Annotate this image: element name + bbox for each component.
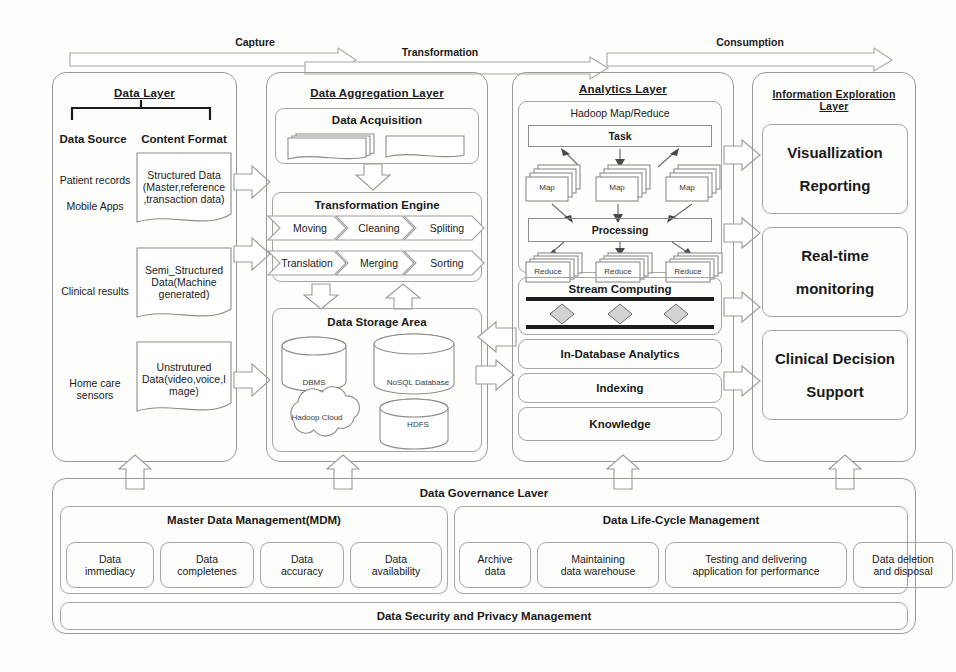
- data-source-item-clinical-results: Clinical results: [52, 283, 138, 299]
- data-source-item-patient-records: Patient records: [52, 172, 138, 188]
- data-source-heading: Data Source: [52, 131, 134, 147]
- mdm-item-data-availability[interactable]: Data availability: [350, 542, 442, 588]
- arrow-acquisition-to-transformation: [352, 163, 394, 191]
- reduce-label: Reduce: [534, 267, 562, 276]
- map-label: Map: [609, 183, 625, 192]
- map-label: Map: [679, 183, 695, 192]
- architecture-diagram: Capture Transformation Consumption Data …: [0, 0, 956, 672]
- transformation-step-cleaning: Cleaning: [350, 219, 408, 237]
- exploration-card-line2: Support: [806, 383, 864, 400]
- exploration-card-line2: Reporting: [800, 177, 871, 194]
- storage-label-hdfs: HDFS: [386, 417, 450, 431]
- lifecycle-item-line1: Data deletion: [872, 553, 934, 565]
- analytics-layer-title-text: Analytics Layer: [579, 83, 667, 95]
- transformation-step-sorting: Sorting: [418, 254, 476, 272]
- mdm-item-line2: accuracy: [281, 565, 323, 577]
- data-source-label: sensors: [77, 389, 114, 401]
- transformation-step-merging: Merging: [350, 254, 408, 272]
- mdm-item-line1: Data: [291, 553, 313, 565]
- lifecycle-item-line1: Maintaining: [571, 553, 625, 565]
- map-label-3: Map: [666, 180, 708, 194]
- governance-layer-title-text: Data Governance Laver: [420, 487, 548, 499]
- stream-computing-graphic: [524, 297, 716, 331]
- mdm-title: Master Data Management(MDM): [60, 512, 448, 528]
- lifecycle-item-maintaining-data-warehouse[interactable]: Maintaining data warehouse: [537, 542, 659, 588]
- storage-label-nosql: NoSQL Database: [378, 375, 458, 389]
- lifecycle-item-archive-data[interactable]: Archive data: [459, 542, 531, 588]
- hadoop-mapreduce-title-text: Hadoop Map/Reduce: [570, 107, 669, 119]
- storage-label-hadoop-cloud: Hadoop Cloud: [282, 410, 352, 424]
- step-label: Sorting: [430, 257, 463, 269]
- stream-bar-bottom: [526, 325, 714, 329]
- transformation-step-translation: Translation: [274, 254, 340, 272]
- transformation-step-moving: Moving: [282, 219, 338, 237]
- storage-label: NoSQL Database: [387, 378, 449, 387]
- stream-bar-top: [526, 297, 714, 301]
- storage-label: Hadoop Cloud: [291, 413, 342, 422]
- lifecycle-item-data-deletion-and-disposal[interactable]: Data deletion and disposal: [853, 542, 953, 588]
- stream-diamond-2: [608, 304, 632, 324]
- exploration-card-line1: Real-time: [801, 247, 869, 264]
- transformation-engine-title: Transformation Engine: [272, 196, 482, 214]
- reduce-label-1: Reduce: [526, 264, 570, 278]
- mdm-item-line1: Data: [99, 553, 121, 565]
- mdm-item-line2: completenes: [177, 565, 237, 577]
- stream-computing-title-text: Stream Computing: [569, 283, 672, 295]
- data-acquisition-title-text: Data Acquisition: [332, 114, 422, 126]
- exploration-card-line2: monitoring: [796, 280, 874, 297]
- transformation-step-spliting: Spliting: [418, 219, 476, 237]
- storage-label: DBMS: [302, 378, 325, 387]
- exploration-card-real-time-monitoring[interactable]: Real-time monitoring: [762, 227, 908, 317]
- reduce-label-3: Reduce: [666, 264, 710, 278]
- analytics-block-label: In-Database Analytics: [560, 348, 679, 360]
- lifecycle-item-line1: Archive: [477, 553, 512, 565]
- lifecycle-item-line2: data: [485, 565, 505, 577]
- map-label: Map: [539, 183, 555, 192]
- data-layer-title-text: Data Layer: [114, 87, 175, 99]
- task-box: Task: [528, 125, 712, 147]
- analytics-block-label: Indexing: [596, 382, 643, 394]
- lifecycle-item-line2: data warehouse: [561, 565, 636, 577]
- data-storage-area-title-text: Data Storage Area: [327, 316, 426, 328]
- format-line: (Master,reference: [143, 181, 225, 193]
- arrows-engine-storage: [300, 284, 440, 310]
- storage-label-dbms: DBMS: [282, 375, 346, 389]
- reduce-label: Reduce: [674, 267, 702, 276]
- format-line: mage): [169, 385, 199, 397]
- exploration-layer-title-line1: Information Exploration: [772, 88, 895, 100]
- lifecycle-item-line1: Testing and delivering: [705, 553, 807, 565]
- mdm-item-data-immediacy[interactable]: Data immediacy: [66, 542, 154, 588]
- analytics-block-label: Knowledge: [589, 418, 650, 430]
- processing-label: Processing: [592, 224, 649, 236]
- analytics-block-knowledge: Knowledge: [518, 407, 722, 441]
- map-label-1: Map: [526, 180, 568, 194]
- aggregation-layer-title-text: Data Aggregation Layer: [310, 87, 444, 99]
- lifecycle-item-line2: and disposal: [874, 565, 933, 577]
- content-format-heading-text: Content Format: [141, 133, 227, 145]
- mdm-item-data-completenes[interactable]: Data completenes: [160, 542, 254, 588]
- task-label: Task: [608, 130, 631, 142]
- exploration-card-visualization-reporting[interactable]: Visuallization Reporting: [762, 124, 908, 214]
- mdm-item-line1: Data: [196, 553, 218, 565]
- mdm-item-line1: Data: [385, 553, 407, 565]
- content-format-unstructured-text: Unstrutured Data(video,voice,I mage): [136, 350, 232, 408]
- hadoop-mapreduce-title: Hadoop Map/Reduce: [518, 105, 722, 121]
- processing-box: Processing: [528, 218, 712, 242]
- exploration-card-clinical-decision-support[interactable]: Clinical Decision Support: [762, 330, 908, 420]
- data-source-label: Patient records: [60, 174, 131, 186]
- mdm-item-data-accuracy[interactable]: Data accuracy: [260, 542, 344, 588]
- step-label: Spliting: [430, 222, 464, 234]
- reduce-label: Reduce: [604, 267, 632, 276]
- exploration-card-line1: Visuallization: [787, 144, 883, 161]
- analytics-layer-title: Analytics Layer: [518, 80, 728, 98]
- analytics-block-indexing: Indexing: [518, 373, 722, 403]
- lifecycle-item-line2: application for performance: [692, 565, 819, 577]
- lifecycle-item-testing-and-delivering[interactable]: Testing and delivering application for p…: [665, 542, 847, 588]
- document-icon: [386, 136, 464, 157]
- data-source-item-home-care-sensors: Home care sensors: [52, 372, 138, 406]
- content-format-semi-structured-text: Semi_Structured Data(Machine generated): [136, 253, 232, 311]
- data-acquisition-title: Data Acquisition: [275, 112, 479, 128]
- exploration-layer-title-line2: Layer: [819, 100, 848, 112]
- step-label: Translation: [281, 257, 333, 269]
- data-acquisition-shapes: [282, 130, 472, 160]
